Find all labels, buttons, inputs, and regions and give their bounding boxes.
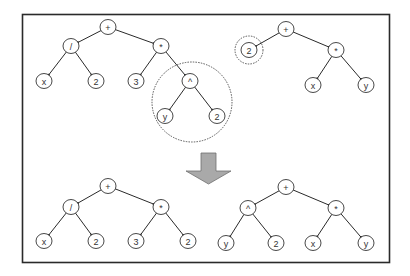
tree-node: 2: [88, 234, 104, 249]
tree-edge: [293, 190, 329, 205]
down-arrow-icon: [186, 153, 231, 184]
node-label: *: [334, 46, 338, 56]
tree-node: y: [157, 109, 173, 124]
tree-edge: [78, 30, 102, 42]
node-label: 2: [185, 237, 190, 247]
tree-node: x: [305, 236, 321, 251]
tree-node: +: [100, 179, 116, 194]
node-label: 2: [93, 237, 98, 247]
tree-node: /: [63, 200, 79, 215]
tree-node: ^: [182, 74, 198, 89]
tree-node: +: [100, 20, 116, 35]
node-label: x: [42, 77, 47, 87]
tree-node: *: [153, 200, 169, 215]
tree-node: ^: [240, 201, 256, 216]
tree-node: *: [328, 201, 344, 216]
tree-edge: [140, 52, 156, 75]
tree-edge: [49, 52, 67, 75]
tree-edge: [293, 32, 329, 47]
node-label: *: [159, 203, 163, 213]
tree-node: x: [305, 78, 321, 93]
tree-edge: [230, 214, 244, 236]
tree-edge: [140, 213, 156, 235]
tree-edge: [317, 56, 332, 78]
tree-edge: [317, 214, 332, 236]
tree-edge: [78, 190, 102, 204]
node-label: *: [334, 204, 338, 214]
node-label: 2: [214, 112, 219, 122]
tree-node: y: [358, 78, 374, 93]
tree-node: 2: [268, 236, 284, 251]
tree-node: *: [153, 39, 169, 54]
node-label: +: [105, 182, 110, 192]
tree-node: +: [278, 22, 294, 37]
tree-node: y: [358, 236, 374, 251]
tree-node: 2: [88, 74, 104, 89]
tree-node: 2: [241, 43, 257, 58]
tree-edge: [75, 52, 91, 75]
tree-node: +: [278, 180, 294, 195]
tree-edge: [341, 214, 361, 238]
tree-edge: [49, 213, 67, 235]
node-label: y: [224, 239, 229, 249]
tree-node: /: [63, 39, 79, 54]
tree-node: 3: [128, 74, 144, 89]
tree-node: 2: [209, 109, 225, 124]
tree-edge: [166, 213, 184, 235]
tree-edge: [115, 189, 154, 204]
tree-edge: [75, 213, 91, 235]
tree-node: x: [36, 74, 52, 89]
node-label: y: [364, 239, 369, 249]
edge-layer: [47, 30, 362, 239]
node-label: y: [364, 81, 369, 91]
node-label: +: [283, 25, 288, 35]
crossover-diagram: +/*x23^y2+2*xy+/*x232+^*y2xy: [0, 0, 410, 276]
node-label: x: [311, 81, 316, 91]
node-label: y: [163, 112, 168, 122]
tree-edge: [255, 191, 280, 205]
tree-node: 2: [180, 234, 196, 249]
tree-edge: [341, 56, 361, 80]
tree-node: 3: [128, 234, 144, 249]
node-label: x: [311, 239, 316, 249]
tree-edge: [195, 87, 213, 110]
node-label: 2: [246, 46, 251, 56]
tree-edge: [115, 30, 154, 44]
node-label: +: [105, 23, 110, 33]
tree-edge: [253, 214, 272, 237]
node-label: x: [42, 237, 47, 247]
node-label: *: [159, 42, 163, 52]
tree-node: x: [36, 234, 52, 249]
tree-edge: [169, 87, 185, 110]
tree-node: *: [328, 43, 344, 58]
tree-edge: [256, 33, 280, 47]
node-label: 3: [133, 77, 138, 87]
node-label: 2: [93, 77, 98, 87]
node-label: 2: [273, 239, 278, 249]
node-label: 3: [133, 237, 138, 247]
tree-node: y: [218, 236, 234, 251]
node-label: +: [283, 183, 288, 193]
node-layer: +/*x23^y2+2*xy+/*x232+^*y2xy: [36, 20, 374, 251]
